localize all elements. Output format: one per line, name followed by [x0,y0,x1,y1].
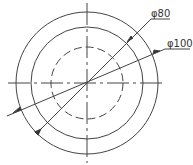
phi80-arrow-upper [127,36,133,42]
phi100-label: φ100 [167,39,193,49]
phi80-label: φ80 [151,9,170,19]
circle-dimension-drawing [0,0,193,165]
